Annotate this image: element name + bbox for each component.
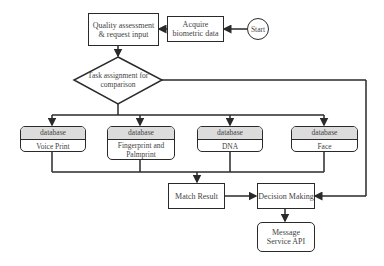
task-decision-label: Task assignment for comparison <box>84 71 152 89</box>
acquire-node: Acquire biometric data <box>167 16 224 42</box>
db-label: Face <box>292 140 357 151</box>
quality-label: Quality assessment & request input <box>89 21 158 39</box>
db-face: database Face <box>291 126 358 152</box>
db-header: database <box>21 127 85 140</box>
match-label: Match Result <box>175 192 218 201</box>
message-label: Message Service API <box>261 228 311 246</box>
db-header: database <box>108 127 174 140</box>
message-service-node: Message Service API <box>257 222 315 252</box>
decision-label: Decision Making <box>258 192 313 201</box>
db-label: Voice Print <box>21 140 85 151</box>
start-label: Start <box>251 25 265 34</box>
match-result-node: Match Result <box>168 183 225 209</box>
db-header: database <box>198 127 262 140</box>
db-fingerprint: database Fingerprint and Palmprint <box>107 126 175 160</box>
db-voice-print: database Voice Print <box>20 126 86 152</box>
db-dna: database DNA <box>197 126 263 152</box>
start-node: Start <box>247 18 269 40</box>
db-label: DNA <box>198 140 262 151</box>
quality-node: Quality assessment & request input <box>88 13 159 46</box>
acquire-label: Acquire biometric data <box>168 20 223 38</box>
db-header: database <box>292 127 357 140</box>
decision-making-node: Decision Making <box>257 183 315 209</box>
db-label: Fingerprint and Palmprint <box>108 140 174 159</box>
